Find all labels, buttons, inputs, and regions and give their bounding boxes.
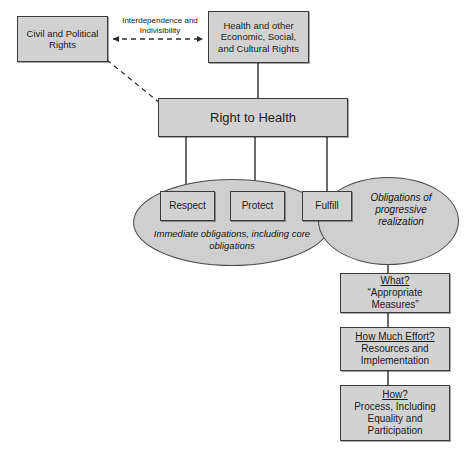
node-protect[interactable]: Protect <box>230 191 285 221</box>
node-health-and-other-escr[interactable]: Health and other Economic, Social, and C… <box>208 11 309 63</box>
ellipse-progressive-realization-label: Obligations of progressive realization <box>352 192 450 229</box>
node-question-what[interactable]: What? “Appropriate Measures” <box>340 273 450 313</box>
ellipse-immediate-obligations-label: Immediate obligations, including core ob… <box>140 228 324 251</box>
node-question-how-heading: How? <box>382 389 408 400</box>
node-question-how-much-effort[interactable]: How Much Effort? Resources and Implement… <box>340 327 450 371</box>
node-respect[interactable]: Respect <box>160 191 215 221</box>
node-respect-label: Respect <box>161 200 214 212</box>
connector-civil-to-right-to-health <box>107 60 161 104</box>
edge-label-interdependence: Interdependence and Indivisibility <box>112 16 208 35</box>
node-fulfill[interactable]: Fulfill <box>302 191 352 221</box>
node-health-and-other-escr-label: Health and other Economic, Social, and C… <box>209 20 308 54</box>
node-civil-and-political-rights[interactable]: Civil and Political Rights <box>17 16 108 62</box>
node-question-what-heading: What? <box>381 275 410 286</box>
node-fulfill-label: Fulfill <box>303 200 351 212</box>
node-question-how-much-effort-heading: How Much Effort? <box>355 331 434 342</box>
node-right-to-health-label: Right to Health <box>159 110 347 125</box>
node-protect-label: Protect <box>231 200 284 212</box>
node-question-how-body: Process, Including Equality and Particip… <box>354 401 436 436</box>
node-question-what-body: “Appropriate Measures” <box>367 287 422 310</box>
node-civil-and-political-rights-label: Civil and Political Rights <box>18 28 107 50</box>
node-question-how[interactable]: How? Process, Including Equality and Par… <box>340 385 450 441</box>
node-right-to-health[interactable]: Right to Health <box>158 98 348 137</box>
diagram-canvas: Immediate obligations, including core ob… <box>0 0 473 455</box>
node-question-how-much-effort-body: Resources and Implementation <box>361 343 429 366</box>
